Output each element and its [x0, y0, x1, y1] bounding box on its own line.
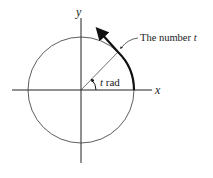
- angle-label: t rad: [100, 76, 120, 88]
- label-pointer: [121, 38, 138, 48]
- angle-arrow: [92, 80, 96, 90]
- x-axis-label: x: [154, 83, 161, 97]
- y-axis-label: y: [75, 5, 82, 19]
- arc-label: The number t: [140, 32, 198, 43]
- unit-circle-diagram: x y t rad The number t: [0, 0, 213, 178]
